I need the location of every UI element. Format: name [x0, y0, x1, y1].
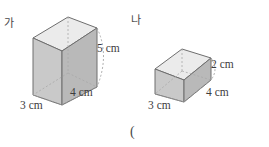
figure-ga-depth-label: 4 cm [70, 86, 93, 98]
figure-ga-width-label: 3 cm [20, 99, 43, 111]
figure-na-label: 나 [131, 11, 141, 27]
figure-na-height-label: 2 cm [211, 58, 234, 70]
figure-na-width-label: 3 cm [148, 99, 171, 111]
figure-ga-height-label: 5 cm [97, 42, 120, 54]
ga-height-leader [97, 28, 104, 87]
figure-ga-label: 가 [4, 14, 14, 30]
figure-page: 가 나 5 cm 4 cm 3 cm 2 cm 4 cm 3 cm ( [0, 0, 269, 147]
figure-na-depth-label: 4 cm [206, 86, 229, 98]
answer-parenthesis: ( [130, 124, 135, 140]
